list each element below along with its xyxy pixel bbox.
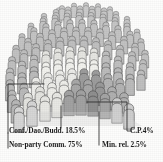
pictogram-chart: Conf./Dao./Budd. 18.5% Non-party Comm. 7… — [0, 0, 163, 162]
crowd-pictogram — [0, 0, 163, 162]
